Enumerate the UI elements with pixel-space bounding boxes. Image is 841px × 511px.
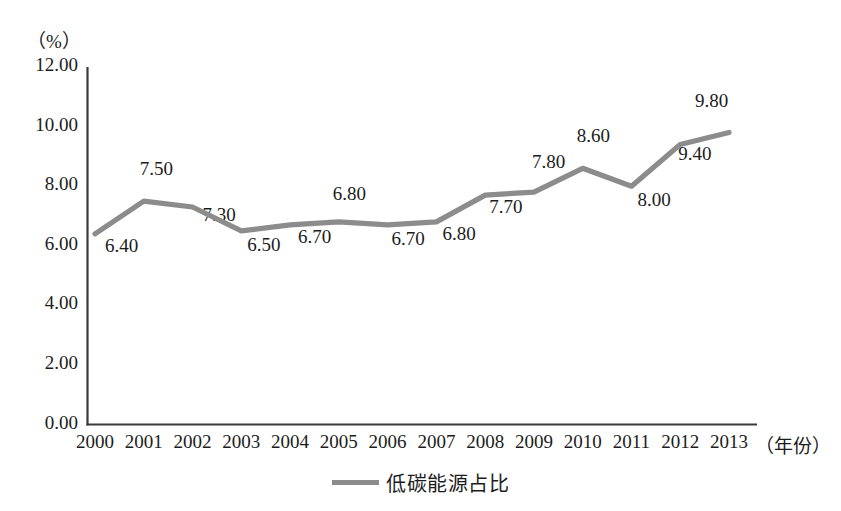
legend-label: 低碳能源占比 <box>386 468 509 497</box>
line-swatch <box>332 480 379 485</box>
data-series-line <box>95 133 729 234</box>
line-chart: （%） （年份） 0.002.004.006.008.0010.0012.00 … <box>0 0 841 511</box>
chart-legend: 低碳能源占比 <box>0 462 841 502</box>
plot-area <box>0 0 841 511</box>
axis-lines <box>87 67 758 426</box>
